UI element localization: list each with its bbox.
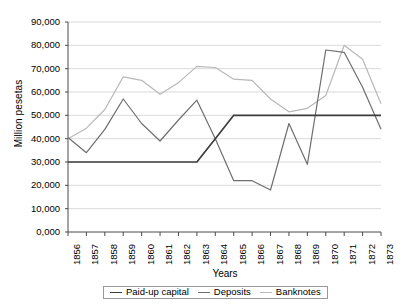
legend-swatch-icon (198, 292, 210, 293)
plot-area (0, 0, 412, 308)
legend-label: Deposits (214, 287, 251, 297)
legend-item-deposits[interactable]: Deposits (198, 287, 251, 297)
legend-swatch-icon (260, 292, 272, 293)
chart-legend: Paid-up capitalDepositsBanknotes (103, 286, 328, 299)
legend-swatch-icon (110, 292, 122, 293)
x-axis-title: Years (165, 268, 285, 279)
legend-item-banknotes[interactable]: Banknotes (260, 287, 321, 297)
series-line-deposits (68, 50, 381, 190)
legend-label: Banknotes (276, 287, 321, 297)
legend-item-paid-up-capital[interactable]: Paid-up capital (110, 287, 189, 297)
chart-container: Million pesetas 0,00010,00020,00030,0004… (0, 0, 412, 308)
legend-label: Paid-up capital (126, 287, 189, 297)
